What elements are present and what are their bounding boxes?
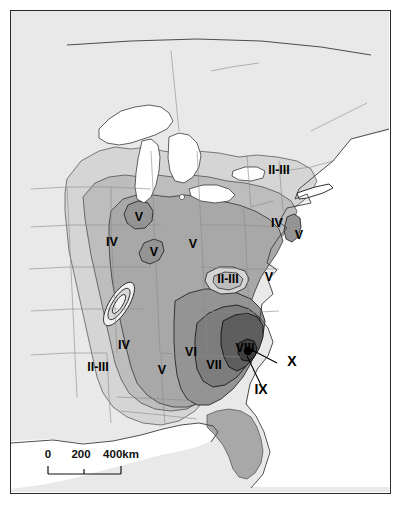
scale-tick-200: 200 [71,448,90,460]
intensity-label-appalachia-2-3: II-III [217,272,239,286]
intensity-label-midwest-4: IV [106,235,118,249]
intensity-label-ne-2-3: II-III [268,163,290,177]
map-frame: II-IIIIVVVIVVVII-IIIVII-IIIIVVVIVIIVIII … [10,10,391,494]
intensity-label-central-5: V [189,237,198,251]
callout-label-intensity-x: X [287,353,297,369]
intensity-label-mid-atl-4: IV [271,216,283,230]
intensity-label-upper-mw-5: V [135,210,144,224]
small-lake [179,194,184,199]
intensity-label-piedmont-5: V [265,270,274,284]
callout-label-intensity-ix: IX [254,381,268,397]
intensity-label-south-6: VI [185,345,197,359]
intensity-label-west-4: IV [118,338,130,352]
scale-tick-400: 400km [103,448,139,460]
intensity-label-west-2-3: II-III [87,360,109,374]
intensity-label-coastal-5: V [295,228,304,242]
intensity-label-south-7: VII [206,358,221,372]
intensity-label-south-8: VIII [236,341,255,355]
isoseismal-map: II-IIIIVVVIVVVII-IIIVII-IIIIVVVIVIIVIII … [11,11,389,492]
intensity-label-il-5: V [150,245,159,259]
scale-tick-0: 0 [45,448,51,460]
intensity-label-south-5: V [158,363,167,377]
